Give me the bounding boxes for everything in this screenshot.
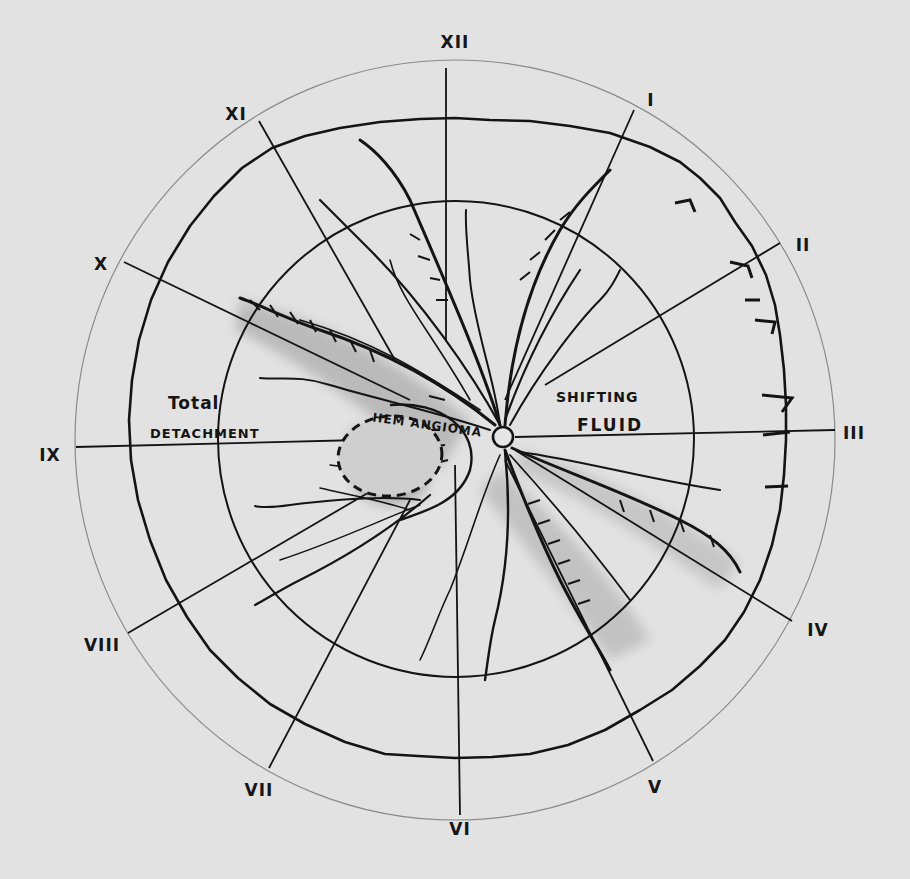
shifting-fluid-label-line1: SHIFTING: [556, 389, 639, 405]
optic-disc: [493, 427, 513, 447]
fundus-diagram-svg: [0, 0, 910, 879]
total-detachment-label-line2: DETACHMENT: [150, 426, 260, 441]
shifting-fluid-label-line2: FLUID: [577, 415, 643, 435]
serration-marks: [675, 200, 792, 487]
clock-hour-label: VI: [449, 819, 470, 839]
clock-hour-label: XI: [225, 104, 246, 124]
retinal-drawing: XIIIIIIIIIVVVIVIIVIIIIXXXI Total DETACHM…: [0, 0, 910, 879]
clock-hour-label: I: [647, 90, 654, 110]
clock-hour-label: X: [94, 254, 108, 274]
clock-hour-label: IV: [807, 620, 828, 640]
clock-hour-label: VIII: [84, 635, 120, 655]
clock-hour-label: XII: [441, 32, 470, 52]
clock-hour-label: V: [648, 777, 662, 797]
total-detachment-label-line1: Total: [168, 393, 219, 413]
clock-hour-label: II: [796, 235, 811, 255]
clock-hour-label: VII: [245, 780, 274, 800]
clock-hour-label: III: [843, 423, 865, 443]
clock-hour-label: IX: [39, 445, 60, 465]
